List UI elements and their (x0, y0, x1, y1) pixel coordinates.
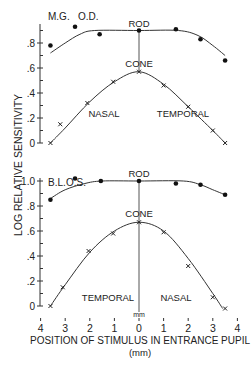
rod-label: ROD (128, 168, 149, 179)
rod-data-point (198, 182, 203, 187)
rod-data-point (99, 179, 104, 184)
cone-data-point (223, 307, 227, 311)
chart-panel-1: .8.6.4.20M.G.O.D.RODCONENASALTEMPORAL (27, 11, 228, 149)
cone-fit-curve (50, 222, 222, 308)
x-tick-label: 1 (161, 322, 167, 334)
x-tick-label: 0 (136, 322, 142, 334)
rod-data-point (97, 32, 102, 37)
eye-label: O.D. (78, 11, 99, 22)
x-tick-label: 1 (111, 322, 117, 334)
x-tick-label: 2 (185, 322, 191, 334)
rod-data-point (223, 192, 228, 197)
y-tick-label: .2 (27, 113, 36, 124)
cone-label: CONE (125, 208, 152, 219)
x-tick-label: 3 (62, 322, 68, 334)
y-tick-label: .8 (27, 38, 36, 49)
y-tick-label: .2 (27, 276, 36, 287)
cone-data-point (186, 264, 190, 268)
cone-data-point (223, 141, 227, 145)
x-tick-label: 4 (234, 322, 240, 334)
eye-label: O.S. (66, 177, 86, 188)
x-axis-unit: (mm) (129, 347, 151, 358)
y-tick-label: .8 (27, 201, 36, 212)
cone-data-point (58, 122, 62, 126)
rod-data-point (223, 58, 228, 63)
rod-data-point (48, 197, 53, 202)
left-region-label: NASAL (88, 108, 119, 119)
cone-data-point (211, 129, 215, 133)
right-region-label: NASAL (160, 292, 191, 303)
cone-data-point (211, 295, 215, 299)
x-tick-label: 4 (38, 322, 44, 334)
rod-data-point (137, 179, 142, 184)
subject-label: B.L. (48, 177, 66, 188)
zero-unit-label: mm (133, 311, 145, 318)
cone-data-point (87, 249, 91, 253)
cone-data-point (48, 304, 52, 308)
rod-data-point (137, 28, 142, 33)
cone-label: CONE (125, 58, 152, 69)
rod-data-point (174, 181, 179, 186)
rod-data-point (198, 37, 203, 42)
rod-data-point (48, 43, 53, 48)
chart-panel-2: 1.0.8.6.4.20B.L.O.S.RODCONETEMPORALNASAL (21, 168, 227, 312)
x-axis-title: POSITION OF STIMULUS IN ENTRANCE PUPIL (30, 335, 250, 346)
subject-label: M.G. (48, 11, 70, 22)
x-tick-label: 3 (210, 322, 216, 334)
left-region-label: TEMPORAL (82, 292, 134, 303)
rod-label: ROD (128, 18, 149, 29)
rod-fit-curve (50, 30, 225, 55)
y-tick-label: .6 (27, 63, 36, 74)
y-tick-label: .4 (27, 88, 36, 99)
rod-data-point (73, 24, 78, 29)
y-tick-label: 0 (29, 301, 35, 312)
y-tick-label: .4 (27, 251, 36, 262)
right-region-label: TEMPORAL (157, 108, 209, 119)
rod-data-point (174, 27, 179, 32)
y-tick-label: .6 (27, 226, 36, 237)
y-axis-title: LOG RELATIVE SENSITIVITY (12, 94, 24, 236)
cone-data-point (48, 141, 52, 145)
y-tick-label: 0 (29, 138, 35, 149)
x-tick-label: 2 (87, 322, 93, 334)
sensitivity-chart: .8.6.4.20M.G.O.D.RODCONENASALTEMPORAL1.0… (0, 0, 251, 365)
